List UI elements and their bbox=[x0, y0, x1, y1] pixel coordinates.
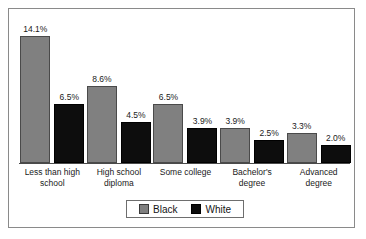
bar-wrapper: 3.9% bbox=[220, 15, 250, 163]
bar-value-label: 14.1% bbox=[12, 24, 58, 34]
bar-wrapper: 8.6% bbox=[87, 15, 117, 163]
category-label-line: Bachelor's bbox=[219, 167, 286, 178]
bar[interactable] bbox=[321, 145, 351, 163]
category-label-line: Some college bbox=[152, 167, 219, 178]
bar-wrapper: 3.9% bbox=[187, 15, 217, 163]
bar[interactable] bbox=[54, 104, 84, 163]
bar-wrapper: 6.5% bbox=[153, 15, 183, 163]
bar-value-label: 8.6% bbox=[79, 74, 125, 84]
bar-wrapper: 4.5% bbox=[121, 15, 151, 163]
category-label: Less than highschool bbox=[19, 167, 86, 189]
category-label-line: degree bbox=[285, 178, 352, 189]
bar-group: 3.3%2.0% bbox=[285, 15, 352, 163]
bar-group: 3.9%2.5% bbox=[219, 15, 286, 163]
bar-value-label: 3.3% bbox=[279, 121, 325, 131]
bar[interactable] bbox=[121, 122, 151, 163]
category-label: High schooldiploma bbox=[86, 167, 153, 189]
bar[interactable] bbox=[87, 86, 117, 163]
bar-group: 6.5%3.9% bbox=[152, 15, 219, 163]
bar-value-label: 6.5% bbox=[145, 92, 191, 102]
bar[interactable] bbox=[254, 140, 284, 163]
bar-wrapper: 2.5% bbox=[254, 15, 284, 163]
bar-group: 14.1%6.5% bbox=[19, 15, 86, 163]
bar-group: 8.6%4.5% bbox=[86, 15, 153, 163]
category-label: Advanceddegree bbox=[285, 167, 352, 189]
bar[interactable] bbox=[153, 104, 183, 163]
bar-value-label: 3.9% bbox=[212, 116, 258, 126]
bar[interactable] bbox=[187, 128, 217, 163]
category-axis-labels: Less than highschoolHigh schooldiplomaSo… bbox=[19, 167, 352, 197]
category-label: Bachelor'sdegree bbox=[219, 167, 286, 189]
bar-wrapper: 6.5% bbox=[54, 15, 84, 163]
plot-area: 14.1%6.5%8.6%4.5%6.5%3.9%3.9%2.5%3.3%2.0… bbox=[19, 15, 352, 163]
legend-item[interactable]: Black bbox=[139, 204, 177, 215]
bar-wrapper: 2.0% bbox=[321, 15, 351, 163]
chart-legend: BlackWhite bbox=[126, 200, 244, 218]
category-label-line: Advanced bbox=[285, 167, 352, 178]
x-axis-line bbox=[19, 163, 350, 164]
legend-label: White bbox=[205, 204, 231, 215]
category-label-line: Less than high bbox=[19, 167, 86, 178]
bar-value-label: 2.0% bbox=[313, 133, 359, 143]
legend-swatch-icon bbox=[191, 204, 201, 214]
category-label-line: degree bbox=[219, 178, 286, 189]
chart-screenshot: 14.1%6.5%8.6%4.5%6.5%3.9%3.9%2.5%3.3%2.0… bbox=[0, 0, 366, 239]
legend-swatch-icon bbox=[139, 204, 149, 214]
legend-item[interactable]: White bbox=[191, 204, 231, 215]
bar-wrapper: 14.1% bbox=[20, 15, 50, 163]
legend-label: Black bbox=[153, 204, 177, 215]
category-label-line: diploma bbox=[86, 178, 153, 189]
category-label-line: High school bbox=[86, 167, 153, 178]
chart-frame: 14.1%6.5%8.6%4.5%6.5%3.9%3.9%2.5%3.3%2.0… bbox=[8, 8, 355, 228]
category-label-line: school bbox=[19, 178, 86, 189]
category-label: Some college bbox=[152, 167, 219, 178]
